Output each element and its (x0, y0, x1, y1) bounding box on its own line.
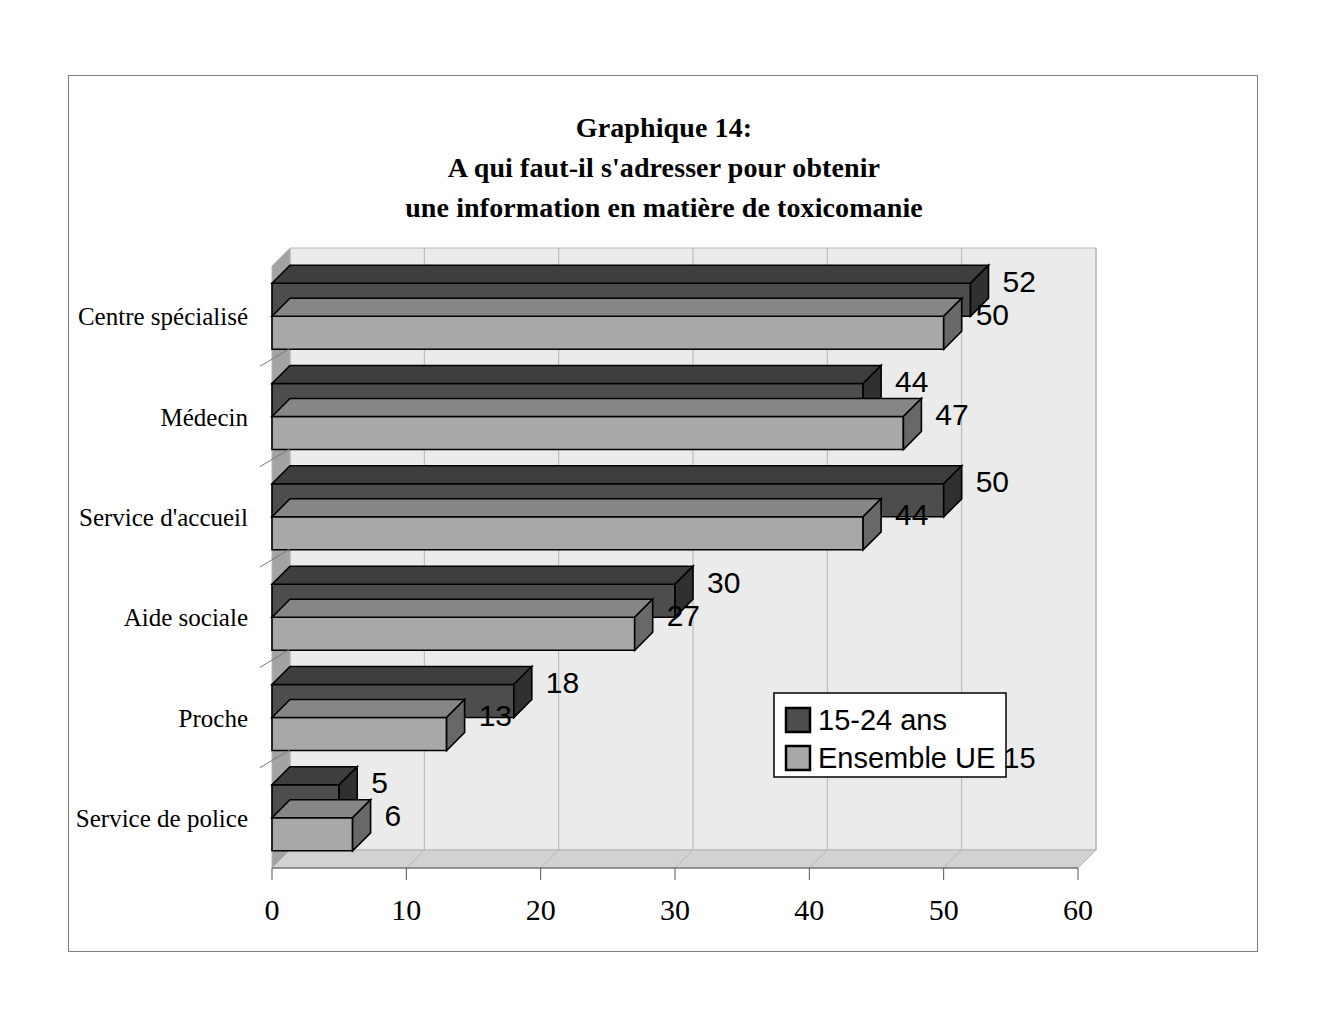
x-tick-label: 20 (526, 893, 556, 926)
bar-top-face (272, 366, 881, 384)
bar-series2 (272, 599, 653, 650)
bar-series2 (272, 499, 881, 550)
bar-front-face (272, 617, 635, 650)
bar-value-label: 44 (895, 365, 928, 398)
legend-swatch (786, 746, 810, 770)
category-label: Proche (179, 705, 248, 732)
bar-series2 (272, 800, 371, 851)
bar-value-label: 13 (479, 699, 512, 732)
bar-top-face (272, 700, 465, 718)
category-label: Médecin (161, 404, 249, 431)
bar-value-label: 5 (371, 766, 388, 799)
bar-value-label: 50 (976, 465, 1009, 498)
x-tick-label: 0 (265, 893, 280, 926)
bar-value-label: 50 (976, 298, 1009, 331)
bar-series2 (272, 399, 921, 450)
bar-top-face (272, 265, 989, 283)
bar-value-label: 44 (895, 498, 928, 531)
chart-page: Graphique 14: A qui faut-il s'adresser p… (0, 0, 1321, 1032)
x-tick-label: 30 (660, 893, 690, 926)
legend-item[interactable]: Ensemble UE 15 (786, 742, 1036, 774)
bar-top-face (272, 399, 921, 417)
bar-value-label: 30 (707, 566, 740, 599)
bar-front-face (272, 718, 447, 751)
bar-top-face (272, 566, 693, 584)
bar-series2 (272, 700, 465, 751)
chart-frame: Graphique 14: A qui faut-il s'adresser p… (68, 75, 1258, 952)
legend-item[interactable]: 15-24 ans (786, 704, 947, 736)
category-label: Aide sociale (124, 604, 248, 631)
legend-swatch (786, 708, 810, 732)
chart-canvas: Centre spécialiséMédecinService d'accuei… (69, 76, 1259, 953)
bar-value-label: 18 (546, 666, 579, 699)
category-label: Centre spécialisé (78, 303, 248, 330)
bar-top-face (272, 298, 962, 316)
x-tick-label: 50 (929, 893, 959, 926)
category-labels: Centre spécialiséMédecinService d'accuei… (76, 303, 249, 832)
legend-label: Ensemble UE 15 (818, 742, 1036, 774)
bar-top-face (272, 599, 653, 617)
bar-top-face (272, 499, 881, 517)
category-label: Service de police (76, 805, 248, 832)
bar-front-face (272, 417, 903, 450)
bar-front-face (272, 517, 863, 550)
category-label: Service d'accueil (79, 504, 248, 531)
x-tick-label: 10 (391, 893, 421, 926)
x-axis-tick-labels: 0102030405060 (265, 893, 1094, 926)
bar-value-label: 47 (935, 398, 968, 431)
bar-top-face (272, 466, 962, 484)
bar-value-label: 6 (385, 799, 402, 832)
bar-chart-3d: Centre spécialiséMédecinService d'accuei… (69, 76, 1259, 953)
bar-front-face (272, 316, 944, 349)
bar-value-label: 52 (1003, 265, 1036, 298)
bar-top-face (272, 667, 532, 685)
bar-front-face (272, 818, 353, 851)
x-tick-label: 40 (794, 893, 824, 926)
bar-value-label: 27 (667, 599, 700, 632)
x-tick-label: 60 (1063, 893, 1093, 926)
bar-series2 (272, 298, 962, 349)
chart-legend[interactable]: 15-24 ansEnsemble UE 15 (774, 693, 1036, 777)
legend-label: 15-24 ans (818, 704, 947, 736)
